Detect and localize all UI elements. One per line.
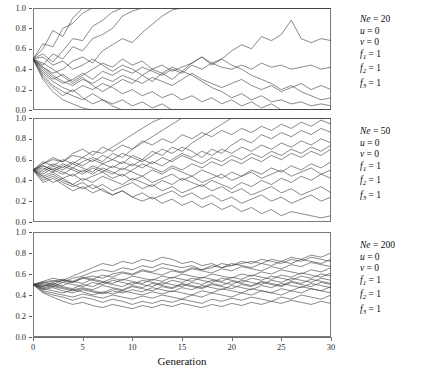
x-tick-label: 5 bbox=[71, 343, 95, 352]
legend-row: f3 = 1 bbox=[360, 304, 395, 319]
x-tick-mark bbox=[83, 337, 84, 341]
y-tick-label: 0.6 bbox=[0, 155, 26, 164]
x-tick-label: 15 bbox=[170, 343, 194, 352]
y-tick-label: 0.4 bbox=[0, 291, 26, 300]
trajectory-line bbox=[33, 8, 331, 59]
y-tick-label: 0.4 bbox=[0, 176, 26, 185]
trajectory-line bbox=[33, 20, 331, 81]
y-tick-mark bbox=[29, 201, 32, 202]
trajectory-line bbox=[33, 145, 331, 170]
y-tick-label: 0.0 bbox=[0, 333, 26, 342]
y-tick-label: 0.8 bbox=[0, 249, 26, 258]
trajectory-line bbox=[33, 59, 331, 110]
y-tick-mark bbox=[29, 253, 32, 254]
y-tick-label: 0.2 bbox=[0, 85, 26, 94]
legend-row: Ne = 50 bbox=[360, 126, 390, 138]
trajectory-line bbox=[33, 59, 331, 110]
y-tick-label: 0.8 bbox=[0, 24, 26, 33]
y-tick-mark bbox=[29, 49, 32, 50]
trajectory-line bbox=[33, 285, 331, 309]
y-tick-mark bbox=[29, 316, 32, 317]
x-tick-label: 20 bbox=[220, 343, 244, 352]
x-axis-title: Generation bbox=[33, 355, 331, 367]
trajectory-line bbox=[33, 262, 331, 284]
x-tick-mark bbox=[33, 337, 34, 341]
legend-row: v = 0 bbox=[360, 37, 390, 49]
legend-row: u = 0 bbox=[360, 26, 390, 38]
trajectory-lines-ne-20 bbox=[33, 8, 331, 110]
y-tick-label: 0.6 bbox=[0, 270, 26, 279]
y-tick-mark bbox=[29, 118, 32, 119]
plot-panel-ne-50 bbox=[33, 118, 331, 222]
genetic-drift-figure: 1.00.80.60.40.20.0 1.00.80.60.40.20.0 1.… bbox=[0, 0, 445, 375]
trajectory-line bbox=[33, 8, 331, 62]
y-tick-label: 1.0 bbox=[0, 4, 26, 13]
legend-row: f3 = 1 bbox=[360, 190, 390, 205]
legend-row: Ne = 200 bbox=[360, 240, 395, 252]
trajectory-line bbox=[33, 59, 331, 110]
legend-row: f1 = 1 bbox=[360, 275, 395, 290]
y-tick-label: 0.8 bbox=[0, 134, 26, 143]
x-tick-label: 0 bbox=[21, 343, 45, 352]
y-tick-label: 0.2 bbox=[0, 197, 26, 206]
x-tick-label: 25 bbox=[269, 343, 293, 352]
y-tick-label: 0.4 bbox=[0, 65, 26, 74]
y-tick-mark bbox=[29, 222, 32, 223]
trajectory-lines-ne-200 bbox=[33, 232, 331, 337]
legend-row: f2 = 1 bbox=[360, 63, 390, 78]
y-tick-mark bbox=[29, 110, 32, 111]
plot-panel-ne-20 bbox=[33, 8, 331, 110]
x-tick-mark bbox=[281, 337, 282, 341]
legend-panel-ne-50: Ne = 50u = 0v = 0f1 = 1f2 = 1f3 = 1 bbox=[360, 126, 390, 205]
trajectory-line bbox=[33, 8, 331, 59]
trajectory-line bbox=[33, 59, 331, 92]
trajectory-line bbox=[33, 59, 331, 110]
legend-row: f1 = 1 bbox=[360, 49, 390, 64]
trajectory-line bbox=[33, 253, 331, 285]
y-tick-mark bbox=[29, 295, 32, 296]
trajectory-line bbox=[33, 170, 331, 195]
trajectory-lines-ne-50 bbox=[33, 118, 331, 222]
y-tick-mark bbox=[29, 8, 32, 9]
legend-panel-ne-20: Ne = 20u = 0v = 0f1 = 1f2 = 1f3 = 1 bbox=[360, 14, 390, 93]
y-tick-mark bbox=[29, 28, 32, 29]
y-tick-mark bbox=[29, 160, 32, 161]
x-tick-label: 10 bbox=[120, 343, 144, 352]
legend-row: f2 = 1 bbox=[360, 175, 390, 190]
y-tick-label: 0.2 bbox=[0, 312, 26, 321]
trajectory-line bbox=[33, 118, 331, 170]
y-tick-mark bbox=[29, 180, 32, 181]
legend-row: u = 0 bbox=[360, 138, 390, 150]
legend-row: f2 = 1 bbox=[360, 289, 395, 304]
x-tick-mark bbox=[331, 337, 332, 341]
x-tick-mark bbox=[232, 337, 233, 341]
legend-row: v = 0 bbox=[360, 263, 395, 275]
y-tick-mark bbox=[29, 274, 32, 275]
y-tick-mark bbox=[29, 69, 32, 70]
legend-row: v = 0 bbox=[360, 149, 390, 161]
y-tick-mark bbox=[29, 232, 32, 233]
plot-panel-ne-200 bbox=[33, 232, 331, 337]
y-tick-label: 0.0 bbox=[0, 218, 26, 227]
y-tick-label: 0.6 bbox=[0, 44, 26, 53]
y-tick-label: 1.0 bbox=[0, 114, 26, 123]
y-tick-mark bbox=[29, 337, 32, 338]
y-tick-mark bbox=[29, 139, 32, 140]
legend-row: f3 = 1 bbox=[360, 78, 390, 93]
x-tick-mark bbox=[182, 337, 183, 341]
legend-panel-ne-200: Ne = 200u = 0v = 0f1 = 1f2 = 1f3 = 1 bbox=[360, 240, 395, 319]
x-tick-label: 30 bbox=[319, 343, 343, 352]
legend-row: Ne = 20 bbox=[360, 14, 390, 26]
trajectory-line bbox=[33, 8, 331, 65]
y-tick-label: 1.0 bbox=[0, 228, 26, 237]
y-tick-mark bbox=[29, 90, 32, 91]
legend-row: u = 0 bbox=[360, 252, 395, 264]
legend-row: f1 = 1 bbox=[360, 161, 390, 176]
trajectory-line bbox=[33, 118, 331, 170]
x-tick-mark bbox=[132, 337, 133, 341]
